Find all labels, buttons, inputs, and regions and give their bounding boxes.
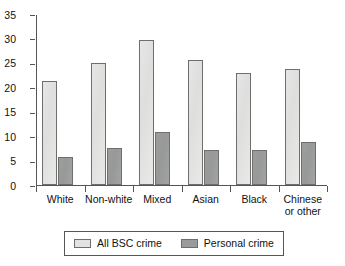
x-axis-separator xyxy=(182,186,183,192)
bar-personal-crime xyxy=(155,132,170,185)
x-axis-separator xyxy=(36,186,37,192)
bar-all-bsc-crime xyxy=(236,73,251,185)
bar-chart: 05101520253035 WhiteNon-whiteMixedAsianB… xyxy=(0,0,345,266)
y-axis-tick-mark xyxy=(30,186,35,187)
y-axis-tick-mark xyxy=(30,88,35,89)
x-axis-category-line: Mixed xyxy=(133,194,182,206)
bar-all-bsc-crime xyxy=(42,81,57,185)
legend-swatch-personal-crime xyxy=(181,239,198,248)
legend-label-personal-crime: Personal crime xyxy=(204,238,274,249)
legend-swatch-all-bsc-crime xyxy=(74,239,91,248)
plot-area xyxy=(36,15,327,186)
bar-all-bsc-crime xyxy=(139,40,154,185)
bar-group xyxy=(231,15,280,185)
y-axis-tick-label: 10 xyxy=(0,132,16,142)
chart-legend: All BSC crime Personal crime xyxy=(64,231,284,256)
x-axis-separator xyxy=(327,186,328,192)
bar-personal-crime xyxy=(58,157,73,185)
x-axis-separator xyxy=(279,186,280,192)
bar-all-bsc-crime xyxy=(91,63,106,185)
bar-group xyxy=(86,15,135,185)
bar-group xyxy=(37,15,86,185)
x-axis-category-line: Black xyxy=(230,194,279,206)
x-axis-separator xyxy=(230,186,231,192)
bar-all-bsc-crime xyxy=(285,69,300,185)
x-axis-category-label: Asian xyxy=(182,194,231,206)
bar-group xyxy=(134,15,183,185)
y-axis-tick-label: 25 xyxy=(0,58,16,68)
x-axis-category-label: Mixed xyxy=(133,194,182,206)
bar-personal-crime xyxy=(107,148,122,185)
y-axis-tick-mark xyxy=(30,39,35,40)
y-axis-tick-mark xyxy=(30,137,35,138)
bar-personal-crime xyxy=(301,142,316,185)
x-axis-category-line: Non-white xyxy=(85,194,134,206)
y-axis-tick-label: 15 xyxy=(0,107,16,117)
x-axis-category-line: White xyxy=(36,194,85,206)
bar-all-bsc-crime xyxy=(188,60,203,185)
x-axis-category-line: or other xyxy=(279,206,328,218)
y-axis-tick-label: 20 xyxy=(0,83,16,93)
y-axis-tick-label: 5 xyxy=(0,156,16,166)
x-axis-category-label: White xyxy=(36,194,85,206)
y-axis-tick-mark xyxy=(30,162,35,163)
x-axis-separator xyxy=(85,186,86,192)
y-axis-tick-label: 35 xyxy=(0,10,16,20)
x-axis-category-label: Black xyxy=(230,194,279,206)
bar-personal-crime xyxy=(252,150,267,185)
x-axis-category-line: Chinese xyxy=(279,194,328,206)
y-axis-tick-mark xyxy=(30,113,35,114)
legend-item-personal-crime: Personal crime xyxy=(181,238,274,249)
y-axis-tick-label: 0 xyxy=(0,181,16,191)
bar-personal-crime xyxy=(204,150,219,185)
y-axis-tick-label: 30 xyxy=(0,34,16,44)
bar-group xyxy=(280,15,329,185)
x-axis-separator xyxy=(133,186,134,192)
x-axis-category-line: Asian xyxy=(182,194,231,206)
legend-item-all-bsc-crime: All BSC crime xyxy=(74,238,162,249)
bar-group xyxy=(183,15,232,185)
legend-label-all-bsc-crime: All BSC crime xyxy=(97,238,162,249)
x-axis-category-label: Chineseor other xyxy=(279,194,328,217)
y-axis-tick-mark xyxy=(30,15,35,16)
x-axis-category-label: Non-white xyxy=(85,194,134,206)
y-axis-tick-mark xyxy=(30,64,35,65)
